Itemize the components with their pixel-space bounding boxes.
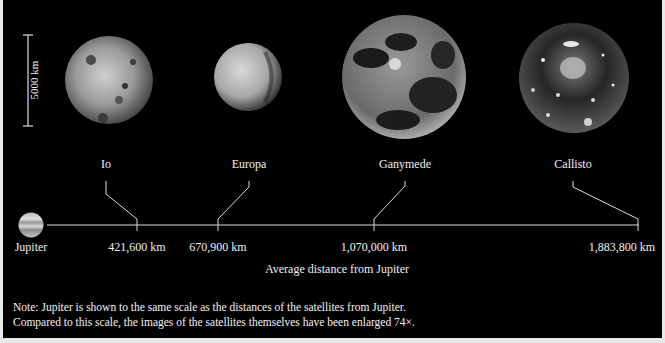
jupiter-moons-diagram: 5000 km Io Europa Ganymede Callisto Jupi… xyxy=(3,0,662,338)
ganymede-label: Ganymede xyxy=(379,157,431,172)
jupiter-image xyxy=(19,213,44,238)
europa-label: Europa xyxy=(232,157,267,172)
note-line-1: Note: Jupiter is shown to the same scale… xyxy=(13,301,406,313)
ganymede-leader xyxy=(374,181,405,231)
io-image xyxy=(65,36,153,124)
axis-caption: Average distance from Jupiter xyxy=(265,262,409,277)
europa-distance: 670,900 km xyxy=(189,240,246,255)
ganymede-image xyxy=(342,15,466,139)
scale-bar-label: 5000 km xyxy=(28,61,40,100)
jupiter-label: Jupiter xyxy=(15,240,48,255)
callisto-leader xyxy=(573,181,638,231)
io-distance: 421,600 km xyxy=(108,240,165,255)
ganymede-distance: 1,070,000 km xyxy=(341,240,407,255)
callisto-distance: 1,883,800 km xyxy=(589,240,655,255)
io-label: Io xyxy=(101,157,111,172)
note-line-2: Compared to this scale, the images of th… xyxy=(13,316,415,328)
io-leader xyxy=(106,181,137,231)
callisto-label: Callisto xyxy=(554,157,591,172)
callisto-image xyxy=(519,23,629,133)
europa-leader xyxy=(218,181,249,231)
europa-image xyxy=(214,43,282,111)
